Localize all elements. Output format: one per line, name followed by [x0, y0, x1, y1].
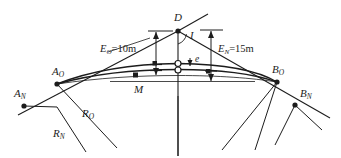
- radial-line-b-new: [275, 105, 295, 145]
- point-dot-a-old: [54, 81, 59, 86]
- diagram-canvas: [0, 0, 341, 158]
- axis-circle-markers: [175, 61, 181, 74]
- label-end-new-symbol: B: [300, 87, 307, 99]
- label-start-new: AN: [14, 88, 26, 100]
- radial-line-b-old-2: [255, 82, 277, 150]
- arrowhead-eo-bottom: [153, 68, 159, 75]
- label-angle-i: I: [190, 31, 194, 42]
- label-start-old-symbol: A: [52, 65, 59, 77]
- label-midpoint-m: M: [134, 84, 143, 95]
- right-tangent-line: [178, 31, 330, 118]
- marker-square-m: [133, 73, 138, 78]
- horizontal-reference-ticks: [148, 30, 223, 31]
- label-radius-new: RN: [53, 128, 65, 140]
- arrowhead-eo-top: [153, 32, 159, 39]
- alignment-curves: [57, 64, 277, 85]
- point-dot-b-old: [274, 79, 279, 84]
- radial-line-a-new-outer: [24, 106, 57, 107]
- label-apex-d: D: [174, 12, 182, 23]
- label-start-old: AO: [52, 66, 64, 78]
- curve-diagram: D I EO=10m EN=15m e M AO AN BO BN RO RN: [0, 0, 341, 158]
- label-offset-e: e: [195, 55, 199, 65]
- marker-square-upper: [153, 61, 158, 66]
- label-external-new: EN=15m: [218, 44, 254, 56]
- radial-lines: [24, 82, 322, 156]
- label-external-new-value: =15m: [229, 43, 254, 54]
- label-start-old-subscript: O: [59, 70, 64, 79]
- label-start-new-symbol: A: [14, 87, 21, 99]
- label-radius-old: RO: [82, 108, 94, 120]
- label-start-new-subscript: N: [21, 92, 26, 101]
- point-dot-d: [175, 28, 180, 33]
- label-radius-old-subscript: O: [89, 112, 94, 121]
- circle-marker-upper: [175, 61, 181, 67]
- arrowhead-e: [188, 60, 193, 66]
- point-dot-a-new: [21, 103, 26, 108]
- label-end-new: BN: [300, 88, 312, 100]
- arrowhead-en-bottom: [208, 74, 214, 81]
- label-radius-old-symbol: R: [82, 107, 89, 119]
- point-dot-b-new: [292, 102, 297, 107]
- circle-marker-lower: [175, 67, 181, 73]
- label-external-old-value: =10m: [112, 43, 137, 54]
- label-radius-new-symbol: R: [53, 127, 60, 139]
- arrowhead-en-top: [208, 31, 214, 38]
- label-end-old: BO: [272, 64, 284, 76]
- label-end-old-symbol: B: [272, 63, 279, 75]
- label-radius-new-subscript: N: [60, 132, 65, 141]
- dimension-offset-e: [188, 58, 193, 66]
- label-external-old: EO=10m: [100, 44, 136, 56]
- label-end-old-subscript: O: [279, 68, 284, 77]
- left-tangent-line: [18, 31, 178, 115]
- radial-line-b-old: [222, 82, 277, 150]
- label-end-new-subscript: N: [307, 92, 312, 101]
- marker-square-right: [206, 69, 211, 74]
- right-tangent-extension: [178, 14, 208, 31]
- radial-line-b-new-outer: [295, 105, 322, 130]
